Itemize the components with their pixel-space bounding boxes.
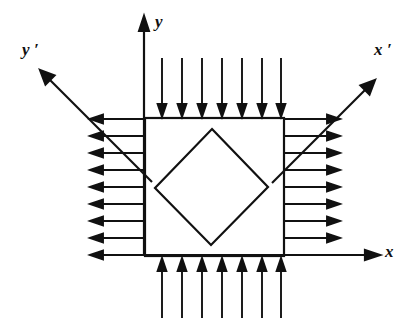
axis-label-x-prime: x ′: [374, 41, 392, 58]
stress-element-square: [145, 118, 284, 256]
bottom-compression-arrows: [158, 258, 286, 318]
figure-canvas: [0, 0, 414, 327]
axis-label-x: x: [385, 243, 394, 260]
axis-label-y: y: [155, 13, 163, 30]
y-axis: [139, 16, 149, 254]
y-prime-axis: [40, 70, 152, 182]
left-tension-arrows: [90, 115, 145, 260]
axis-label-y-prime: y ′: [22, 41, 39, 58]
stress-element-figure: y x x ′ y ′: [0, 0, 414, 327]
top-compression-arrows: [158, 58, 286, 117]
right-tension-arrows: [285, 115, 340, 243]
x-prime-axis: [272, 80, 375, 183]
inscribed-rotated-square: [155, 129, 268, 245]
